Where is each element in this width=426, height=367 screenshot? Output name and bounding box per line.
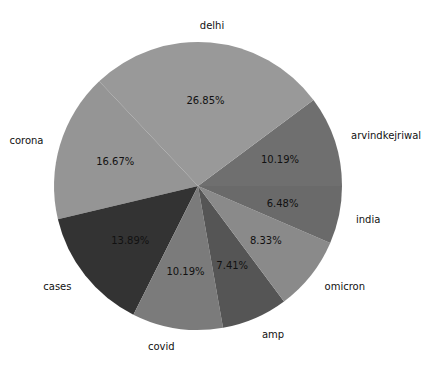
- pie-slices: [54, 42, 342, 330]
- pie-chart: 10.19%26.85%16.67%13.89%10.19%7.41%8.33%…: [0, 0, 426, 367]
- pie-category-label: india: [356, 214, 380, 225]
- pie-category-label: cases: [43, 281, 71, 292]
- pie-percent-label: 13.89%: [111, 235, 149, 246]
- pie-percent-label: 16.67%: [96, 156, 134, 167]
- pie-category-label: delhi: [200, 20, 224, 31]
- pie-percent-label: 6.48%: [267, 198, 299, 209]
- pie-category-label: corona: [9, 135, 43, 146]
- pie-percent-label: 7.41%: [216, 260, 248, 271]
- pie-category-label: covid: [148, 341, 175, 352]
- pie-percent-label: 8.33%: [250, 235, 282, 246]
- pie-percent-label: 10.19%: [261, 154, 299, 165]
- pie-category-label: amp: [262, 329, 284, 340]
- pie-category-label: omicron: [325, 281, 365, 292]
- pie-percent-label: 10.19%: [166, 266, 204, 277]
- pie-percent-label: 26.85%: [186, 95, 224, 106]
- pie-category-label: arvindkejriwal: [351, 130, 421, 141]
